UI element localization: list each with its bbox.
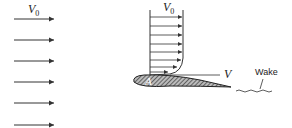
freestream-velocity-label: V0 xyxy=(28,2,39,18)
wake-label: Wake xyxy=(255,67,278,77)
freestream-arrows xyxy=(14,19,54,125)
wake-pointer xyxy=(260,79,263,89)
profile-curve xyxy=(150,10,183,75)
velocity-subscript: 0 xyxy=(35,9,39,18)
velocity-profile xyxy=(150,10,183,75)
point-a-label: A xyxy=(145,75,152,87)
surface-velocity-label: V xyxy=(224,67,231,82)
velocity-subscript: 0 xyxy=(170,7,174,16)
profile-velocity-label: V0 xyxy=(163,0,174,16)
airfoil-flow-diagram xyxy=(0,0,292,128)
wake-line xyxy=(236,90,272,92)
